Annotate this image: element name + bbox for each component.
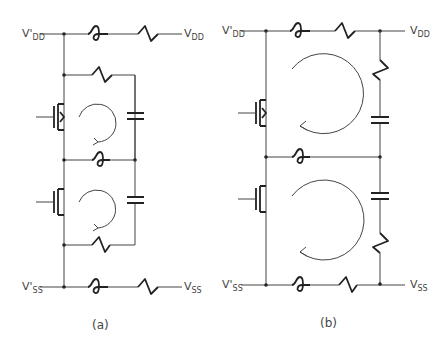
inductor-icon	[88, 26, 108, 40]
vdd-prime-label-b: V'DD	[222, 25, 245, 39]
vdd-label-b: VDD	[410, 25, 430, 39]
resistor-icon	[92, 67, 112, 82]
current-loop-arrow-icon	[292, 54, 364, 134]
capacitor-icon	[371, 193, 389, 199]
resistor-icon	[92, 237, 110, 252]
transistor-icon	[256, 100, 266, 126]
vss-label-a: VSS	[184, 281, 202, 295]
resistor-icon	[138, 279, 158, 294]
inductor-icon	[92, 152, 110, 166]
resistor-icon	[373, 60, 388, 80]
current-loop-arrow-icon	[79, 104, 116, 145]
capacitor-icon	[127, 197, 144, 203]
current-loop-arrow-icon	[292, 180, 364, 260]
panel-b-circuit	[238, 23, 405, 292]
resistor-icon	[335, 23, 355, 38]
capacitor-icon	[371, 117, 389, 123]
inductor-icon	[292, 277, 310, 291]
panel-a-circuit	[36, 26, 182, 294]
transistor-icon	[54, 189, 64, 215]
vss-prime-label-a: V'SS	[22, 281, 43, 295]
caption-a: (a)	[92, 318, 109, 332]
vdd-prime-label-a: V'DD	[22, 28, 45, 42]
vss-prime-label-b: V'SS	[222, 279, 243, 293]
caption-b: (b)	[320, 316, 337, 330]
vdd-label-a: VDD	[184, 28, 204, 42]
inductor-icon	[292, 149, 310, 163]
transistor-icon	[256, 186, 266, 212]
inductor-icon	[290, 23, 310, 37]
transistor-icon	[54, 104, 64, 130]
vss-label-b: VSS	[410, 279, 428, 293]
circuit-diagram	[0, 0, 448, 358]
inductor-icon	[88, 279, 108, 293]
resistor-icon	[339, 277, 357, 292]
resistor-icon	[373, 233, 388, 253]
current-loop-arrow-icon	[79, 190, 116, 231]
resistor-icon	[138, 26, 158, 41]
